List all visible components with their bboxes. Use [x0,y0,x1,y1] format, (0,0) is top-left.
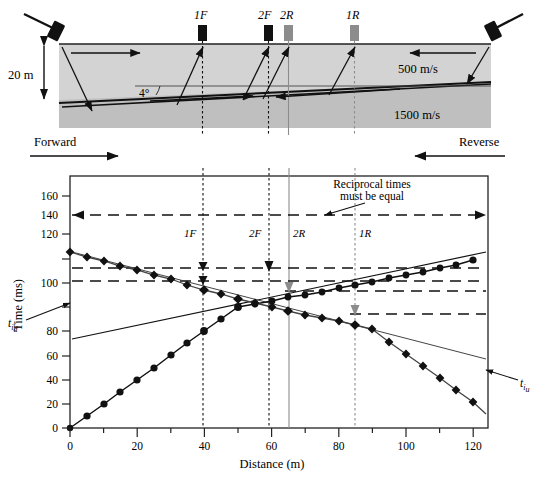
dip-angle-label: 4° [139,87,150,99]
chart-label-1F: 1F [184,227,197,239]
y-axis-title: Time (ms) [11,279,25,331]
tid-fit-line [72,252,486,339]
arrow-reciprocal-left [73,211,84,220]
y-tick-140: 140 [41,209,59,221]
x-tick-80: 80 [333,440,345,452]
forward-curve-markers [67,256,477,431]
arrow-2F [265,261,274,272]
y-axis: 0 20 40 60 80 100 120 140 160 Time (ms) [11,190,70,434]
tiu-annotation: tiu [486,370,529,394]
plot-frame [70,176,488,428]
forward-shot-source [24,14,65,42]
cross-section-diagram: 4° 1F 2F 2R [8,8,523,156]
arrow-reciprocal-right [475,211,486,220]
y-tick-120: 120 [41,228,59,240]
arrow-1F-reverse [199,262,208,271]
reverse-label: Reverse [459,135,500,149]
travel-time-chart: 1F 2F 2R 1R Reciprocal times must be equ… [8,168,529,471]
geophone-1R-label: 1R [346,8,360,22]
x-tick-60: 60 [266,440,278,452]
geophone-2R-label: 2R [280,8,294,22]
y-tick-40: 40 [47,374,59,386]
svg-text:tiu: tiu [520,377,529,394]
x-tick-120: 120 [465,440,483,452]
reverse-shot-source [484,14,523,42]
depth-indicator: 20 m [8,46,44,99]
reverse-curve-line [70,252,486,414]
geophone-1F-label: 1F [194,8,208,22]
tiu-sub-u: u [525,385,529,394]
forward-curve-line [70,260,473,428]
figure-svg: 4° 1F 2F 2R [0,0,547,477]
lower-layer-velocity-label: 1500 m/s [394,108,440,122]
y-tick-160: 160 [41,190,59,202]
time-pick-arrows [73,211,486,317]
upper-layer-velocity-label: 500 m/s [398,62,438,76]
chart-label-2R: 2R [293,227,306,239]
x-axis-title: Distance (m) [240,457,305,471]
y-tick-20: 20 [47,398,59,410]
depth-label: 20 m [8,68,34,82]
reciprocal-note-leader [325,203,365,215]
x-axis: 0 20 40 60 80 100 120 Distance (m) [67,428,482,471]
forward-label: Forward [34,135,77,149]
x-tick-40: 40 [199,440,211,452]
tiu-leader [486,370,518,380]
tid-leader [26,303,70,320]
y-tick-100: 100 [41,277,59,289]
reciprocal-note-line2: must be equal [340,190,404,203]
x-tick-0: 0 [67,440,73,452]
x-tick-20: 20 [131,440,143,452]
y-tick-0: 0 [52,422,58,434]
y-tick-80: 80 [47,325,59,337]
geophone-2F-label: 2F [258,8,272,22]
chart-label-1R: 1R [359,227,372,239]
y-tick-60: 60 [47,350,59,362]
figure-root: 4° 1F 2F 2R [0,0,547,477]
chart-label-2F: 2F [249,227,262,239]
x-tick-100: 100 [397,440,415,452]
